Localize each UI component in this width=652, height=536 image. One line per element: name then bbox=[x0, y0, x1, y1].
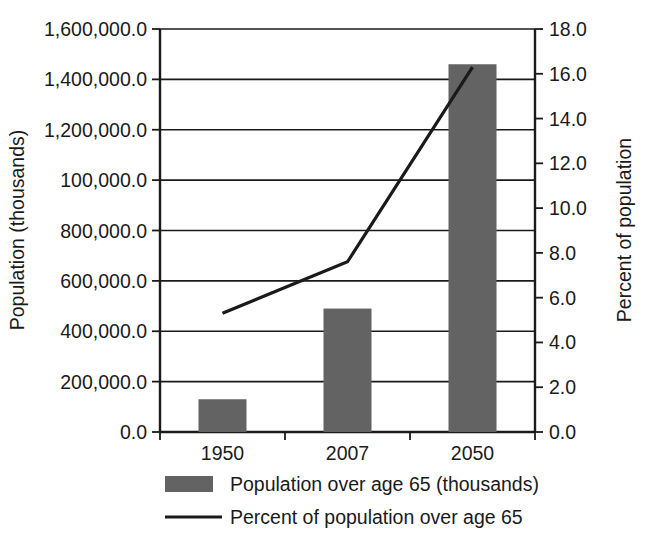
legend-label: Percent of population over age 65 bbox=[230, 506, 523, 528]
category-label: 2050 bbox=[451, 442, 495, 464]
legend-label: Population over age 65 (thousands) bbox=[230, 473, 539, 495]
chart-canvas: 0.0200,000.0400,000.0600,000.0800,000.01… bbox=[0, 0, 652, 536]
right-axis-tick-label: 14.0 bbox=[549, 108, 587, 130]
right-axis-tick-label: 12.0 bbox=[549, 152, 587, 174]
right-axis-tick-label: 8.0 bbox=[549, 242, 576, 264]
right-axis-tick-label: 4.0 bbox=[549, 331, 576, 353]
right-axis-tick-label: 2.0 bbox=[549, 376, 576, 398]
left-axis-tick-label: 0.0 bbox=[120, 421, 147, 443]
y-axis-title: Population (thousands) bbox=[6, 130, 28, 331]
left-axis-tick-label: 600,000.0 bbox=[60, 270, 147, 292]
right-axis-tick-label: 18.0 bbox=[549, 18, 587, 40]
left-axis-tick-label: 800,000.0 bbox=[60, 220, 147, 242]
bar bbox=[199, 399, 247, 432]
category-label: 2007 bbox=[326, 442, 369, 464]
left-axis-tick-label: 200,000.0 bbox=[60, 371, 147, 393]
right-axis-tick-label: 16.0 bbox=[549, 63, 587, 85]
population-age65-chart: 0.0200,000.0400,000.0600,000.0800,000.01… bbox=[0, 0, 652, 536]
left-axis-tick-label: 1,400,000.0 bbox=[44, 68, 147, 90]
right-axis-tick-label: 0.0 bbox=[549, 421, 576, 443]
left-axis-tick-label: 1,200,000.0 bbox=[44, 119, 147, 141]
left-axis-tick-labels: 0.0200,000.0400,000.0600,000.0800,000.01… bbox=[44, 18, 147, 443]
left-axis-tick-label: 100,000.0 bbox=[60, 169, 147, 191]
right-axis-tick-label: 6.0 bbox=[549, 287, 576, 309]
legend-swatch-icon bbox=[165, 476, 213, 492]
bar bbox=[324, 309, 372, 432]
bar bbox=[449, 64, 497, 432]
right-axis-tick-label: 10.0 bbox=[549, 197, 587, 219]
left-axis-tick-label: 400,000.0 bbox=[60, 320, 147, 342]
y2-axis-title: Percent of population bbox=[613, 138, 635, 322]
left-axis-tick-label: 1,600,000.0 bbox=[44, 18, 147, 40]
category-label: 1950 bbox=[201, 442, 245, 464]
